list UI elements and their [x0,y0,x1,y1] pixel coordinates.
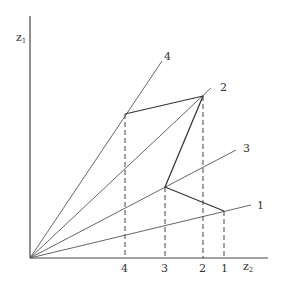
tick-label-4: 4 [121,262,128,275]
ray-label-3: 3 [243,142,250,155]
ray-1 [30,205,251,258]
connecting-path [125,96,224,211]
ray-label-2: 2 [220,81,227,94]
ray-2 [30,88,211,258]
ray-label-4: 4 [164,50,171,63]
ray-3 [30,150,236,258]
tick-label-1: 1 [221,262,228,275]
ray-4 [30,61,162,258]
x-axis-label: z2 [243,260,253,274]
tick-label-3: 3 [161,262,168,275]
y-axis-label: z1 [16,31,26,45]
tick-label-2: 2 [199,262,206,275]
diagram: 4 2 3 1 4 3 2 1 z1 z2 [0,0,282,285]
ray-label-1: 1 [257,199,264,212]
